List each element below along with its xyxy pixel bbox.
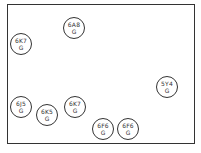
tube-suffix-label: G	[101, 130, 106, 136]
tube-type-label: 6K7	[69, 101, 81, 107]
tube-type-label: 5Y4	[161, 81, 173, 87]
tube-socket-6k7-bottom: 6K7 G	[64, 96, 86, 118]
tube-suffix-label: G	[165, 88, 170, 94]
tube-socket-6j5: 6J5 G	[10, 96, 32, 118]
tube-socket-6k5: 6K5 G	[36, 104, 58, 126]
tube-suffix-label: G	[19, 45, 24, 51]
tube-socket-5y4: 5Y4 G	[156, 76, 178, 98]
tube-suffix-label: G	[73, 108, 78, 114]
tube-socket-6f6-right: 6F6 G	[117, 118, 139, 140]
tube-socket-6k7-top: 6K7 G	[10, 33, 32, 55]
tube-socket-6f6-left: 6F6 G	[92, 118, 114, 140]
tube-type-label: 6F6	[122, 123, 134, 129]
tube-suffix-label: G	[19, 108, 24, 114]
tube-suffix-label: G	[72, 29, 77, 35]
tube-type-label: 6F6	[97, 123, 109, 129]
tube-type-label: 6K5	[41, 109, 53, 115]
tube-type-label: 6A8	[68, 22, 80, 28]
tube-type-label: 6J5	[16, 101, 26, 107]
tube-suffix-label: G	[126, 130, 131, 136]
tube-type-label: 6K7	[15, 38, 27, 44]
tube-socket-6a8: 6A8 G	[63, 17, 85, 39]
tube-suffix-label: G	[45, 116, 50, 122]
